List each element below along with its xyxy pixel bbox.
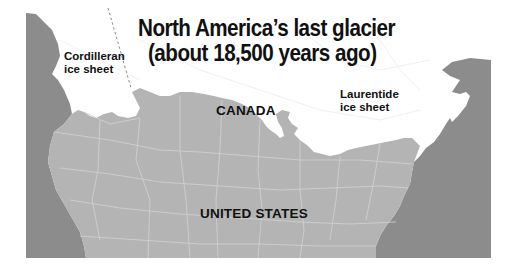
cordilleran-ice-sheet-label: Cordilleran ice sheet [64,50,125,76]
laurentide-line2: ice sheet [340,101,399,114]
cordilleran-line1: Cordilleran [64,50,125,63]
canada-label: CANADA [216,103,276,118]
cordilleran-line2: ice sheet [64,63,125,76]
map-title-line1: North America’s last glacier [138,15,395,41]
laurentide-line1: Laurentide [340,88,399,101]
united-states-label: UNITED STATES [200,206,308,221]
map-title-line2: (about 18,500 years ago) [148,40,377,66]
laurentide-ice-sheet-label: Laurentide ice sheet [340,88,399,114]
